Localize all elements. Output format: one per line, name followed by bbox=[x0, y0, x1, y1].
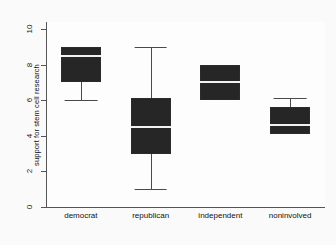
y-axis-tick-label: 6 bbox=[22, 93, 38, 107]
category-label-independent: independent bbox=[198, 211, 242, 220]
y-axis-tick-label-text: 4 bbox=[26, 134, 34, 138]
category-label-republican: republican bbox=[132, 211, 169, 220]
y-axis-tick-label-text: 6 bbox=[26, 98, 34, 102]
y-axis-tick-label-text: 8 bbox=[26, 62, 34, 66]
whisker-cap-upper bbox=[274, 98, 307, 99]
whisker-cap-lower bbox=[64, 100, 97, 101]
median-line-noninvolved bbox=[270, 124, 310, 126]
y-axis-title-holder: support for stem cell research bbox=[8, 22, 24, 208]
box-democrat bbox=[61, 47, 101, 83]
category-label-democrat: democrat bbox=[64, 211, 97, 220]
y-axis-line bbox=[46, 22, 47, 208]
y-axis-tick-label-text: 0 bbox=[26, 205, 34, 209]
whisker-cap-lower bbox=[134, 189, 167, 190]
y-axis-tick-label: 0 bbox=[22, 200, 38, 214]
median-line-independent bbox=[200, 81, 240, 83]
whisker-upper bbox=[290, 98, 291, 107]
whisker-lower bbox=[81, 82, 82, 100]
y-axis-tick-label-text: 2 bbox=[26, 169, 34, 173]
y-axis-tick-label: 8 bbox=[22, 58, 38, 72]
whisker-upper bbox=[151, 47, 152, 99]
box-noninvolved bbox=[270, 107, 310, 134]
category-label-noninvolved: noninvolved bbox=[269, 211, 312, 220]
y-axis-tick-label-text: 10 bbox=[26, 25, 34, 34]
x-axis-line bbox=[46, 207, 325, 208]
y-axis-tick-label: 4 bbox=[22, 129, 38, 143]
whisker-cap-upper bbox=[134, 47, 167, 48]
median-line-republican bbox=[131, 126, 171, 128]
boxplot-figure: support for stem cell research 0246810 d… bbox=[0, 0, 336, 245]
median-line-democrat bbox=[61, 55, 101, 57]
y-axis-tick-label: 10 bbox=[22, 22, 38, 36]
whisker-lower bbox=[151, 154, 152, 190]
y-axis-tick-label: 2 bbox=[22, 164, 38, 178]
